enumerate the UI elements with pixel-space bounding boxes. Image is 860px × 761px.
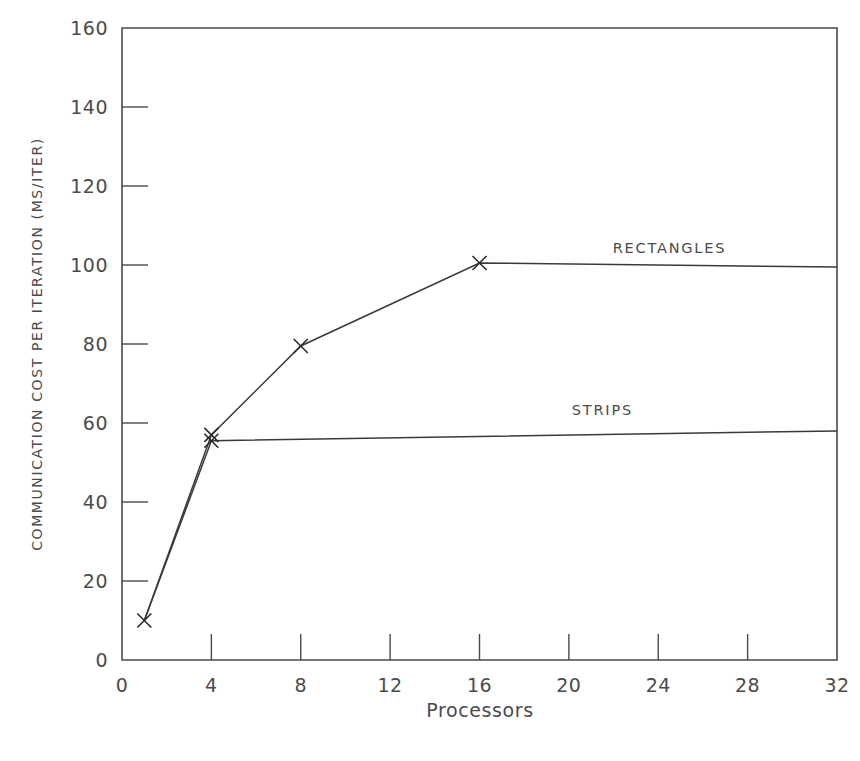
plot-frame (122, 28, 837, 660)
x-tick-label-16: 16 (467, 674, 492, 696)
series-label-strips: STRIPS (572, 402, 633, 418)
y-tick-label-0: 0 (95, 649, 108, 671)
x-axis-tick-labels: 048121620242832 (116, 674, 850, 696)
data-markers-group (137, 256, 486, 627)
series-line-rectangles (144, 263, 837, 620)
y-tick-label-160: 160 (70, 17, 108, 39)
series-line-strips (144, 431, 837, 621)
y-axis-ticks (122, 107, 148, 581)
x-tick-label-12: 12 (378, 674, 403, 696)
y-tick-label-20: 20 (83, 570, 108, 592)
y-tick-label-40: 40 (83, 491, 108, 513)
y-tick-label-80: 80 (83, 333, 108, 355)
x-tick-label-20: 20 (556, 674, 581, 696)
line-chart: 020406080100120140160 048121620242832 RE… (0, 0, 860, 761)
y-axis-tick-labels: 020406080100120140160 (70, 17, 108, 671)
x-tick-label-24: 24 (646, 674, 671, 696)
x-tick-label-32: 32 (824, 674, 849, 696)
x-tick-label-4: 4 (205, 674, 218, 696)
x-tick-label-28: 28 (735, 674, 760, 696)
y-tick-label-100: 100 (70, 254, 108, 276)
y-tick-label-120: 120 (70, 175, 108, 197)
x-tick-label-0: 0 (116, 674, 129, 696)
marker-rectangles-x8 (294, 339, 308, 353)
y-tick-label-140: 140 (70, 96, 108, 118)
y-tick-label-60: 60 (83, 412, 108, 434)
marker-rectangles-x1 (137, 614, 151, 628)
y-axis-title: COMMUNICATION COST PER ITERATION (MS/ITE… (29, 137, 45, 551)
x-axis-ticks (211, 634, 747, 660)
x-tick-label-8: 8 (294, 674, 307, 696)
x-axis-title: Processors (426, 699, 533, 721)
series-labels-group: RECTANGLESSTRIPS (572, 240, 726, 418)
series-label-rectangles: RECTANGLES (613, 240, 727, 256)
data-series-group (144, 263, 837, 620)
chart-figure: 020406080100120140160 048121620242832 RE… (0, 0, 860, 761)
